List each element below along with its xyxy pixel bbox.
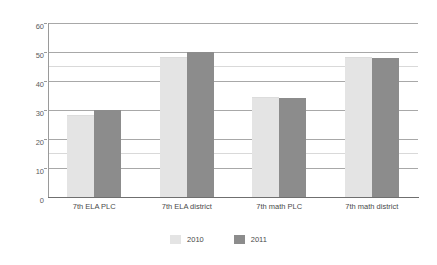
bar-2011-7th-math-plc — [279, 98, 306, 197]
bar-2010-7th-math-district — [345, 57, 372, 197]
chart-legend: 2010 2011 — [0, 231, 437, 247]
legend-swatch-2010-icon — [170, 235, 181, 244]
x-label-7th-math-plc: 7th math PLC — [233, 201, 326, 215]
bar-group-7th-math-plc — [233, 23, 326, 197]
y-tick-mark-50 — [44, 52, 47, 53]
bar-group-7th-ela-district — [141, 23, 234, 197]
bar-2011-7th-ela-plc — [94, 110, 121, 197]
bar-group-7th-math-district — [326, 23, 419, 197]
x-label-7th-ela-district: 7th ELA district — [141, 201, 234, 215]
bar-2011-7th-math-district — [372, 58, 399, 197]
y-tick-label-0: 0 — [6, 197, 44, 205]
bar-chart: 60 50 40 30 20 10 0 — [0, 0, 437, 265]
legend-entry-2010: 2010 — [170, 235, 204, 244]
bar-series-container — [48, 23, 418, 197]
y-tick-40: 40 — [0, 81, 44, 82]
x-axis-category-labels: 7th ELA PLC 7th ELA district 7th math PL… — [48, 201, 418, 215]
y-tick-label-40: 40 — [6, 81, 44, 89]
legend-label-2010: 2010 — [187, 235, 204, 244]
y-tick-label-10: 10 — [6, 168, 44, 176]
y-tick-50: 50 — [0, 52, 44, 53]
y-tick-10: 10 — [0, 168, 44, 169]
bar-group-7th-ela-plc — [48, 23, 141, 197]
x-axis-line — [48, 197, 419, 198]
y-tick-label-20: 20 — [6, 139, 44, 147]
bar-2010-7th-ela-plc — [67, 115, 94, 197]
y-tick-mark-20 — [44, 139, 47, 140]
y-tick-mark-40 — [44, 81, 47, 82]
bar-2011-7th-ela-district — [187, 52, 214, 197]
bar-2010-7th-ela-district — [160, 57, 187, 197]
x-label-7th-math-district: 7th math district — [326, 201, 419, 215]
y-tick-30: 30 — [0, 110, 44, 111]
legend-swatch-2011-icon — [234, 235, 245, 244]
y-tick-mark-30 — [44, 110, 47, 111]
bar-2010-7th-math-plc — [252, 97, 279, 197]
y-tick-0: 0 — [0, 197, 44, 198]
y-tick-label-30: 30 — [6, 110, 44, 118]
y-tick-mark-60 — [44, 23, 47, 24]
legend-label-2011: 2011 — [251, 235, 267, 244]
y-tick-label-50: 50 — [6, 52, 44, 60]
y-tick-60: 60 — [0, 23, 44, 24]
x-label-7th-ela-plc: 7th ELA PLC — [48, 201, 141, 215]
y-tick-mark-10 — [44, 168, 47, 169]
y-tick-label-60: 60 — [6, 23, 44, 31]
y-tick-20: 20 — [0, 139, 44, 140]
legend-entry-2011: 2011 — [234, 235, 267, 244]
